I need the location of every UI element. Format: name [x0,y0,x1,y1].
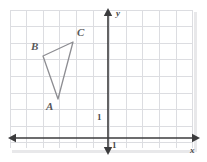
shadow-right [194,12,197,152]
grid-panel [0,0,207,162]
vertex-label-c: C [77,27,84,38]
figure-svg [0,0,207,162]
shadow-bottom [12,150,195,153]
coordinate-plane-figure: A B C y x 1 1 [0,0,207,162]
vertex-label-a: A [46,101,53,112]
y-axis-label: y [116,9,120,18]
x-axis-unit-tick-label: 1 [112,141,117,150]
plot-background [10,10,193,149]
x-axis-label: x [190,146,195,155]
vertex-label-b: B [31,41,38,52]
y-axis-unit-tick-label: 1 [97,113,102,122]
